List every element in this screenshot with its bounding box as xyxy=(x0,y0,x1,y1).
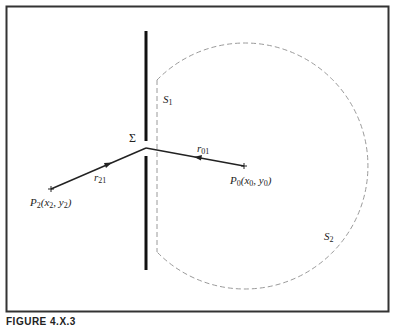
label-aperture: Σ xyxy=(129,131,136,145)
point-p2-marker xyxy=(48,186,54,192)
figure-caption: FIGURE 4.X.3 xyxy=(6,316,76,327)
label-s2: S2 xyxy=(324,230,334,244)
label-r01: r01 xyxy=(197,142,209,156)
label-s1: S1 xyxy=(163,93,173,107)
label-p2: P2(x2, y2) xyxy=(29,196,72,210)
point-p0-marker xyxy=(241,163,247,169)
arrow-r21-icon xyxy=(104,163,112,169)
surface-s2-arc xyxy=(157,43,368,289)
label-r21: r21 xyxy=(94,171,106,185)
label-p0: P0(x0, y0) xyxy=(229,174,272,188)
